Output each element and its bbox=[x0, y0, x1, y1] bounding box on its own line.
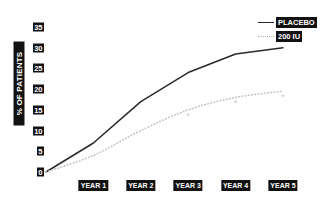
legend-item: PLACEBO bbox=[258, 17, 335, 28]
significance-asterisk: * bbox=[186, 111, 190, 121]
series-line-200-iu bbox=[46, 91, 283, 172]
legend-item: 200 IU bbox=[258, 31, 335, 42]
line-chart: % OF PATIENTS 35302520151050 YEAR 1YEAR … bbox=[0, 0, 335, 211]
legend-swatch-dotted bbox=[258, 36, 274, 37]
legend-label: 200 IU bbox=[276, 31, 302, 42]
series-line-placebo bbox=[46, 48, 283, 172]
significance-asterisk: * bbox=[234, 98, 238, 108]
legend-swatch-solid bbox=[258, 22, 274, 23]
significance-asterisk: * bbox=[281, 92, 285, 102]
legend-label: PLACEBO bbox=[276, 17, 317, 28]
chart-legend: PLACEBO200 IU bbox=[258, 17, 335, 45]
